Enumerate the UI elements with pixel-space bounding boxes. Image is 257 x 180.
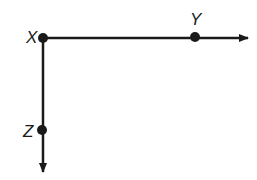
point-z-label: Z <box>22 122 34 141</box>
point-x-dot <box>38 33 48 43</box>
point-y-dot <box>190 32 200 42</box>
point-y-label: Y <box>190 10 203 29</box>
point-z-dot <box>37 125 47 135</box>
ray-diagram: X Y Z <box>0 0 257 180</box>
point-x-label: X <box>25 28 38 47</box>
